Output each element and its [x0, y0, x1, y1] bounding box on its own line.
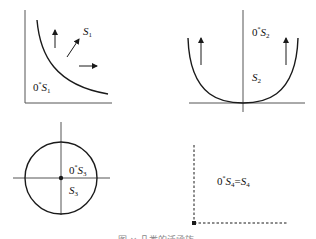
- panel-s2: [188, 10, 305, 112]
- arrow-diagonal-icon: [67, 39, 79, 57]
- origin-dot: [59, 176, 63, 180]
- label-s2-set: 0*S2: [252, 26, 270, 40]
- label-s3-region: S3: [69, 185, 78, 198]
- panel-s3: [13, 122, 110, 215]
- label-s1-region: S1: [83, 26, 92, 39]
- label-s2-region: S2: [252, 72, 261, 85]
- origin-dot: [192, 221, 196, 225]
- label-s1-set: 0*S1: [33, 81, 51, 95]
- label-s3-set: 0*S3: [69, 164, 87, 178]
- label-s4-equation: 0*S4=S4: [217, 175, 250, 189]
- figure-caption: 图 × 几类的泛函族: [118, 233, 194, 239]
